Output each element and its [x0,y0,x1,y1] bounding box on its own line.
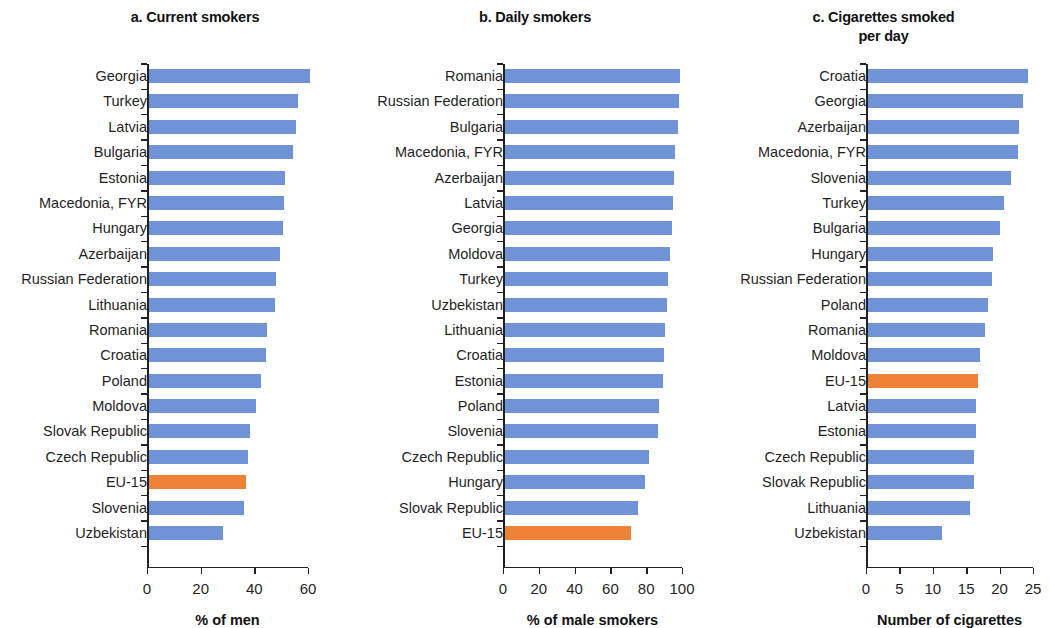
x-tick-label: 0 [862,580,870,597]
panel-a-bar-rows: GeorgiaTurkeyLatviaBulgariaEstoniaMacedo… [0,64,350,546]
category-label: Czech Republic [700,445,873,470]
category-label: Lithuania [0,293,154,318]
panel-c-plot: CroatiaGeorgiaAzerbaijanMacedonia, FYRSl… [700,64,1049,546]
x-tick-label: 20 [991,580,1008,597]
category-label: Poland [0,369,154,394]
bar [866,69,1028,83]
category-label: Turkey [0,89,154,114]
bar-row: Romania [700,318,1049,343]
bar-row: Turkey [700,191,1049,216]
category-label: Moldova [700,343,873,368]
panel-c-x-axis-title: Number of cigarettes [877,612,1022,628]
bar-row: Moldova [0,394,350,419]
x-axis-tick [308,568,309,574]
category-label: Azerbaijan [350,166,510,191]
x-axis-tick [575,568,576,574]
bar [503,221,672,235]
bar [503,475,645,489]
category-label: Croatia [350,343,510,368]
bar-row: Poland [0,369,350,394]
bar [147,501,244,515]
category-label: Romania [700,318,873,343]
x-axis-tick [966,568,967,574]
bar [866,94,1023,108]
x-axis-tick [899,568,900,574]
bar-row: Lithuania [0,293,350,318]
category-label: Romania [0,318,154,343]
panel-b-title: b. Daily smokers [350,8,700,27]
panel-current-smokers: a. Current smokers GeorgiaTurkeyLatviaBu… [0,0,350,625]
bar-row: Bulgaria [0,140,350,165]
panel-c-title-line-2: per day [722,27,1045,46]
bar-row: Croatia [350,343,700,368]
category-label: Czech Republic [0,445,154,470]
category-label: Latvia [700,394,873,419]
bar-row: Moldova [350,242,700,267]
category-label: Uzbekistan [350,293,510,318]
bar [866,120,1019,134]
panel-b-x-axis [503,567,682,569]
category-label: Macedonia, FYR [700,140,873,165]
bar [866,247,993,261]
bar [866,171,1011,185]
x-tick-label: 0 [143,580,151,597]
bar [503,196,673,210]
bar-row: Turkey [0,89,350,114]
bar-row: Slovenia [0,496,350,521]
category-label: Azerbaijan [700,115,873,140]
x-axis-tick [503,568,504,574]
category-label: Hungary [350,470,510,495]
bar-row: Slovenia [350,419,700,444]
category-label: Georgia [350,216,510,241]
x-tick-label: 15 [958,580,975,597]
bar-row: Slovak Republic [350,496,700,521]
bar-row: EU-15 [700,369,1049,394]
panel-c-y-axis [866,64,868,567]
panel-a-y-axis [147,64,149,567]
bar [147,69,310,83]
bar-row: Lithuania [700,496,1049,521]
bar-row: Croatia [700,64,1049,89]
bar-row: Macedonia, FYR [700,140,1049,165]
bar-row: Latvia [350,191,700,216]
bar-row: Azerbaijan [0,242,350,267]
bar [503,374,663,388]
panel-c-bar-rows: CroatiaGeorgiaAzerbaijanMacedonia, FYRSl… [700,64,1049,546]
bar [147,94,298,108]
x-tick-label: 60 [300,580,317,597]
panel-c-title: c. Cigarettes smoked per day [700,8,1049,46]
x-tick-label: 60 [602,580,619,597]
category-label: EU-15 [700,369,873,394]
category-label: Bulgaria [700,216,873,241]
bar-row: Czech Republic [350,445,700,470]
bar-row: Estonia [0,166,350,191]
bar-row: Macedonia, FYR [350,140,700,165]
panel-c-title-line-1: c. Cigarettes smoked [722,8,1045,27]
bar [503,171,674,185]
bar-row: Slovak Republic [700,470,1049,495]
bar-row: Moldova [700,343,1049,368]
category-label: Macedonia, FYR [350,140,510,165]
bar-row: Uzbekistan [0,521,350,546]
category-label: Hungary [0,216,154,241]
category-label: Slovenia [0,496,154,521]
category-label: Estonia [350,369,510,394]
bar-row: Estonia [700,419,1049,444]
category-label: Poland [350,394,510,419]
category-label: Lithuania [350,318,510,343]
bar-row: Croatia [0,343,350,368]
x-axis-tick [147,568,148,574]
bar [147,221,283,235]
bar-row: Hungary [350,470,700,495]
bar-row: Uzbekistan [700,521,1049,546]
bar [147,145,293,159]
bar-row: Latvia [0,115,350,140]
bar-row: Lithuania [350,318,700,343]
bar-row: Romania [350,64,700,89]
category-label: Macedonia, FYR [0,191,154,216]
category-label: Turkey [700,191,873,216]
x-tick-label: 5 [895,580,903,597]
bar-row: Romania [0,318,350,343]
bar [866,501,970,515]
category-label: Latvia [0,115,154,140]
